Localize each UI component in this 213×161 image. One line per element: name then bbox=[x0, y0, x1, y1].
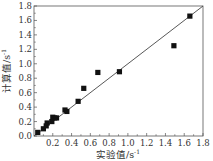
data-point-square bbox=[35, 130, 40, 135]
x-tick-label: 1.6 bbox=[177, 138, 191, 148]
y-tick-label: 0.6 bbox=[18, 88, 32, 98]
data-point-square bbox=[76, 99, 81, 104]
y-tick-label: 0.4 bbox=[18, 102, 32, 112]
data-point-square bbox=[187, 14, 192, 19]
x-axis-title: 实验值/s-1 bbox=[96, 148, 140, 160]
y-tick-label: 1.6 bbox=[18, 15, 32, 25]
data-point-square bbox=[117, 69, 122, 74]
y-tick-label: 1.2 bbox=[18, 44, 32, 54]
y-tick-label: 1.0 bbox=[18, 59, 32, 69]
data-point-square bbox=[54, 115, 59, 120]
x-tick-label: 0.6 bbox=[84, 138, 98, 148]
x-tick-label: 0.4 bbox=[65, 138, 79, 148]
y-tick-label: 0.2 bbox=[18, 117, 32, 127]
x-tick-label: 0.8 bbox=[102, 138, 116, 148]
x-tick-label: 1.2 bbox=[140, 138, 154, 148]
data-point-square bbox=[45, 120, 50, 125]
data-point-square bbox=[81, 86, 86, 91]
y-tick-label: 0.0 bbox=[18, 131, 32, 141]
y-axis-title: 计算值/s-1 bbox=[0, 49, 12, 93]
x-tick-label: 1.0 bbox=[121, 138, 135, 148]
data-point-square bbox=[171, 43, 176, 48]
y-tick-label: 0.8 bbox=[18, 73, 32, 83]
y-tick-label: 1.4 bbox=[18, 30, 32, 40]
x-tick-label: 1.8 bbox=[196, 138, 210, 148]
y-tick-label: 1.8 bbox=[18, 1, 32, 11]
plot-area: 0.00.20.40.60.81.01.21.41.61.80.20.40.60… bbox=[18, 1, 209, 148]
x-tick-label: 0.2 bbox=[46, 138, 60, 148]
scatter-chart: 0.00.20.40.60.81.01.21.41.61.80.20.40.60… bbox=[0, 0, 213, 161]
data-point-square bbox=[64, 109, 69, 114]
data-point-square bbox=[95, 70, 100, 75]
x-tick-label: 1.4 bbox=[159, 138, 173, 148]
